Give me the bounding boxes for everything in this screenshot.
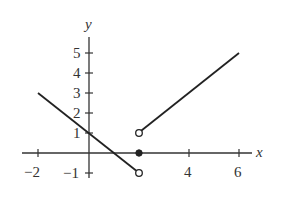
y-axis-label: y <box>83 16 92 32</box>
y-tick-label-neg1: −1 <box>63 165 79 181</box>
left-segment <box>38 93 136 171</box>
x-tick-label-4: 4 <box>184 164 192 180</box>
right-segment <box>142 53 240 131</box>
y-tick-label-4: 4 <box>73 65 81 81</box>
y-tick-label-3: 3 <box>73 85 81 101</box>
y-tick-label-5: 5 <box>73 45 81 61</box>
open-circle-2-neg1 <box>136 170 143 177</box>
closed-point-2-0 <box>136 150 142 156</box>
x-tick-label-6: 6 <box>234 164 242 180</box>
y-tick-label-2: 2 <box>73 105 81 121</box>
x-axis-label: x <box>255 144 263 160</box>
y-tick-label-1: 1 <box>73 125 81 141</box>
open-circle-2-1 <box>136 130 143 137</box>
function-graph: −2 4 6 5 4 3 2 1 −1 x y <box>0 0 282 202</box>
x-tick-label-neg2: −2 <box>24 164 40 180</box>
